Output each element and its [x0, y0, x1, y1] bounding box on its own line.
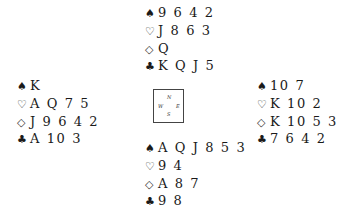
- diamond-icon: ◇: [257, 114, 270, 132]
- west-hearts: ♡A Q 7 5: [17, 95, 99, 113]
- club-icon: ♣: [145, 58, 158, 76]
- east-diamonds: ◇K 10 5 3: [257, 113, 338, 131]
- east-clubs: ♣7 6 4 2: [257, 130, 338, 148]
- spade-icon: ♠: [257, 78, 270, 96]
- diamond-icon: ◇: [17, 114, 30, 132]
- south-clubs: ♣9 8: [145, 192, 246, 210]
- heart-icon: ♡: [257, 96, 270, 114]
- north-diamonds: ◇Q: [145, 40, 215, 58]
- north-hand: ♠9 6 4 2 ♡J 8 6 3 ◇Q ♣K Q J 5: [145, 4, 215, 75]
- club-icon: ♣: [145, 193, 158, 211]
- west-hand: ♠K ♡A Q 7 5 ◇J 9 6 4 2 ♣A 10 3: [17, 77, 99, 148]
- south-spades: ♠A Q J 8 5 3: [145, 139, 246, 157]
- west-spades: ♠K: [17, 77, 99, 95]
- east-spades: ♠10 7: [257, 77, 338, 95]
- north-clubs: ♣K Q J 5: [145, 57, 215, 75]
- compass-east-label: E: [176, 104, 180, 109]
- north-hearts: ♡J 8 6 3: [145, 22, 215, 40]
- compass-west-label: W: [158, 104, 163, 109]
- club-icon: ♣: [17, 131, 30, 149]
- compass-south-label: S: [167, 112, 170, 117]
- west-clubs: ♣A 10 3: [17, 130, 99, 148]
- east-hand: ♠10 7 ♡K 10 2 ◇K 10 5 3 ♣7 6 4 2: [257, 77, 338, 148]
- compass-box: N W E S: [153, 89, 184, 123]
- south-hearts: ♡9 4: [145, 157, 246, 175]
- south-diamonds: ◇A 8 7: [145, 175, 246, 193]
- east-hearts: ♡K 10 2: [257, 95, 338, 113]
- diamond-icon: ◇: [145, 176, 158, 194]
- north-spades: ♠9 6 4 2: [145, 4, 215, 22]
- south-hand: ♠A Q J 8 5 3 ♡9 4 ◇A 8 7 ♣9 8: [145, 139, 246, 210]
- club-icon: ♣: [257, 131, 270, 149]
- heart-icon: ♡: [17, 96, 30, 114]
- west-diamonds: ◇J 9 6 4 2: [17, 113, 99, 131]
- spade-icon: ♠: [145, 5, 158, 23]
- compass-north-label: N: [167, 95, 171, 100]
- spade-icon: ♠: [17, 78, 30, 96]
- diamond-icon: ◇: [145, 41, 158, 59]
- spade-icon: ♠: [145, 140, 158, 158]
- heart-icon: ♡: [145, 23, 158, 41]
- heart-icon: ♡: [145, 158, 158, 176]
